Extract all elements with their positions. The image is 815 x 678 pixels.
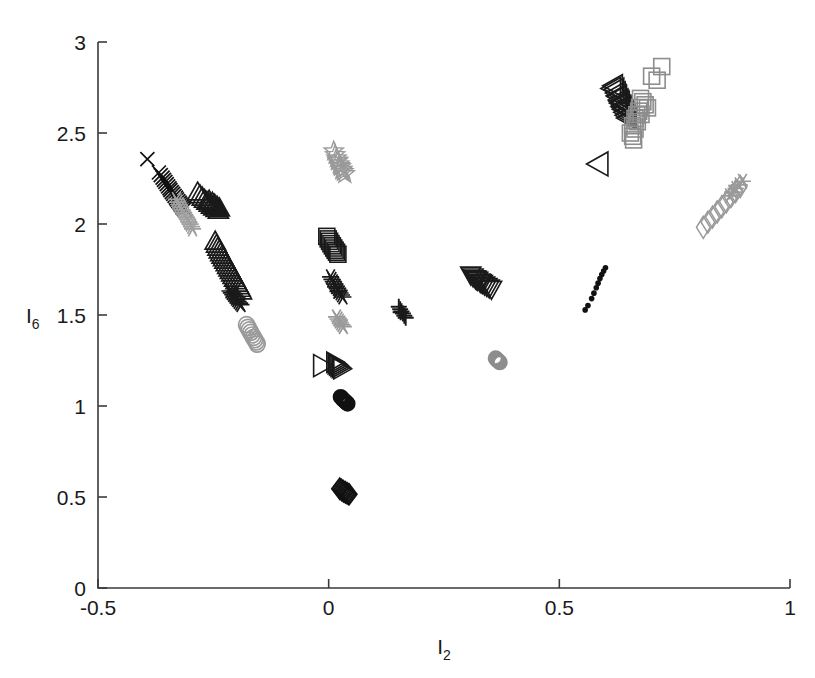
- y-tick-label: 1: [74, 395, 86, 418]
- marker-square: [644, 68, 660, 84]
- x-tick-label: 0: [323, 596, 335, 619]
- x-tick-label: 0.5: [545, 596, 574, 619]
- x-tick-label: -0.5: [80, 596, 116, 619]
- y-tick-label: 2: [74, 213, 86, 236]
- series-dot-black-right-diag: [582, 265, 608, 313]
- series-circle-black-mid: [334, 390, 354, 410]
- marker-x: [140, 152, 154, 166]
- axis-lines: [98, 42, 790, 588]
- series-asterisk-black-mid: [322, 269, 351, 304]
- marker-plus: [395, 306, 411, 322]
- figure-container: 00.511.522.53-0.500.51I2I6: [0, 0, 815, 678]
- y-tick-label: 3: [74, 31, 86, 54]
- marker-dot: [589, 296, 595, 302]
- series-plus-black-mid: [391, 299, 414, 326]
- marker-triangle-left-open: [587, 152, 608, 176]
- x-axis-label: I2: [437, 635, 451, 663]
- y-tick-label: 0.5: [57, 486, 86, 509]
- series-star-gray-upper-mid: [324, 141, 354, 182]
- series-diamond-black-lower: [332, 479, 356, 504]
- x-tick-label: 1: [784, 596, 796, 619]
- marker-dot: [585, 303, 591, 309]
- scatter-plot: 00.511.522.53-0.500.51I2I6: [0, 0, 815, 678]
- marker-dot: [591, 290, 597, 296]
- series-triangle-up-upper-left: [188, 182, 230, 218]
- series-dot-gray-mid-right: [489, 352, 506, 369]
- series-triangle-left-open-right: [587, 152, 608, 176]
- y-tick-label: 1.5: [57, 304, 86, 327]
- series-square-black-mid: [319, 228, 346, 262]
- series-triangle-right-filled-mid: [327, 352, 352, 379]
- marker-dot: [603, 265, 609, 271]
- y-tick-label: 2.5: [57, 122, 86, 145]
- series-asterisk-gray-mid: [328, 309, 352, 334]
- y-axis-label: I6: [26, 304, 40, 332]
- series-triangle-down-mid-right: [461, 267, 502, 299]
- series-circle-gray-left: [239, 317, 266, 352]
